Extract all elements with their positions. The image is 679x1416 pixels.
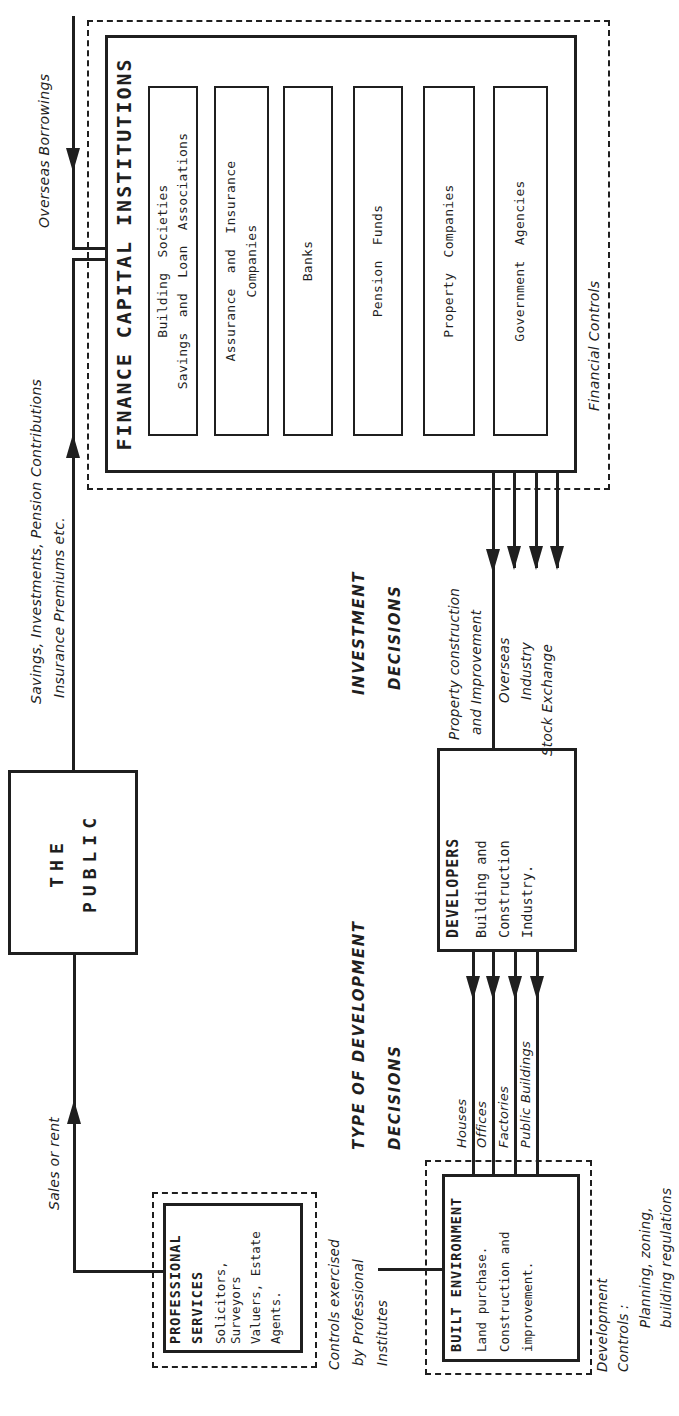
overseas-output-label: Overseas [496, 637, 512, 703]
houses-arrowhead-icon [466, 976, 480, 1000]
assurance-line2: Companies [242, 224, 262, 297]
professional-services-line1: Solicitors, Surveyors [213, 1206, 243, 1344]
offices-label: Offices [474, 1101, 489, 1148]
fci-to-stock-exchange-arrowhead-icon [550, 546, 564, 570]
stock-exchange-output-label: Stock Exchange [539, 644, 555, 756]
professional-services-line3: Agents. [268, 1206, 283, 1344]
pension-funds-box: Pension Funds [353, 86, 403, 436]
controls-exercised-note-line1: Controls exercised [326, 1239, 342, 1370]
developers-line2: Construction [496, 758, 512, 938]
investment-decisions-label-line1: INVESTMENT [350, 571, 368, 695]
controls-exercised-note-line3: Institutes [374, 1300, 390, 1366]
controls-exercised-note-line2: by Professional [350, 1259, 366, 1366]
the-public-label-line2: PUBLIC [79, 812, 100, 913]
flow-diagram: THE PUBLIC FINANCE CAPITAL INSTITUTIONS … [0, 0, 679, 1416]
built-environment-title: BUILT ENVIRONMENT [448, 1180, 464, 1352]
financial-controls-label: Financial Controls [586, 281, 602, 411]
developers-line1: Building and [473, 758, 489, 938]
property-companies-label: Property Companies [439, 184, 459, 337]
developers-line3: Industry. [519, 758, 535, 938]
fci-to-industry-arrowhead-icon [529, 546, 543, 570]
fci-to-developers-line [492, 473, 495, 748]
building-societies-line2: Savings and Loan Associations [173, 133, 193, 390]
savings-label-line2: Insurance Premiums etc. [51, 517, 67, 698]
development-controls-note-line1: Development [594, 1278, 610, 1372]
industry-output-label: Industry [518, 642, 534, 700]
finance-capital-institutions-title: FINANCE CAPITAL INSTITUTIONS [112, 35, 136, 473]
banks-label: Banks [298, 241, 318, 282]
overseas-borrowings-label: Overseas Borrowings [36, 74, 52, 228]
built-environment-line3: improvement. [520, 1180, 535, 1352]
offices-arrowhead-icon [486, 976, 500, 1000]
built-environment-line2: Construction and [497, 1180, 512, 1352]
sales-or-rent-arrowhead-icon [67, 1100, 81, 1124]
fci-to-developers-arrowhead-icon [486, 549, 500, 573]
overseas-borrowings-arrowhead-icon [66, 148, 80, 172]
factories-label: Factories [496, 1086, 511, 1148]
property-construction-label-line1: Property construction [446, 588, 462, 740]
property-companies-box: Property Companies [423, 86, 475, 436]
building-societies-line1: Building Societies [153, 184, 173, 337]
professional-services-line2: Valuers, Estate [248, 1206, 263, 1344]
type-of-development-label-line2: DECISIONS [386, 1045, 404, 1150]
built-environment-line1: Land purchase. [474, 1180, 489, 1352]
development-controls-note-line4: building regulations [658, 1188, 674, 1328]
pension-funds-label: Pension Funds [368, 205, 388, 318]
savings-arrow-line [72, 259, 75, 770]
developers-title: DEVELOPERS [444, 758, 462, 938]
type-of-development-label-line1: TYPE OF DEVELOPMENT [350, 920, 368, 1150]
sales-or-rent-label: Sales or rent [46, 1117, 62, 1210]
professional-services-title-line1: PROFESSIONAL [168, 1206, 184, 1344]
savings-label-line1: Savings, Investments, Pension Contributi… [28, 379, 44, 704]
the-public-box: THE PUBLIC [8, 770, 138, 955]
government-agencies-label: Government Agencies [510, 180, 530, 341]
property-construction-label-line2: and Improvement [468, 610, 484, 735]
assurance-line1: Assurance and Insurance [221, 161, 241, 362]
professional-services-title-line2: SERVICES [189, 1206, 205, 1344]
government-agencies-box: Government Agencies [493, 86, 548, 436]
building-societies-box: Building Societies Savings and Loan Asso… [148, 86, 198, 436]
the-public-label-line1: THE [46, 837, 67, 888]
investment-decisions-label-line2: DECISIONS [386, 585, 404, 690]
houses-label: Houses [454, 1099, 469, 1148]
banks-box: Banks [283, 86, 333, 436]
factories-arrowhead-icon [508, 976, 522, 1000]
fci-to-overseas-arrowhead-icon [507, 546, 521, 570]
overseas-borrowings-corner [72, 248, 108, 251]
savings-arrow-corner [72, 259, 108, 262]
assurance-insurance-box: Assurance and Insurance Companies [214, 86, 269, 436]
public-buildings-arrowhead-icon [530, 976, 544, 1000]
development-controls-note-line2: Controls : [615, 1304, 631, 1372]
public-buildings-label: Public Buildings [518, 1041, 533, 1148]
development-controls-note-line3: Planning, zoning, [637, 1207, 653, 1328]
savings-arrowhead-icon [66, 434, 80, 458]
overseas-borrowings-line [72, 16, 75, 249]
